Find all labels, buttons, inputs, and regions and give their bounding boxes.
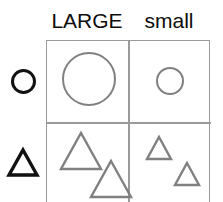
row-label-triangle (0, 122, 46, 202)
column-header-large: LARGE (46, 10, 128, 31)
cell-small-triangle (129, 123, 211, 202)
circle-icon (11, 69, 36, 94)
diagram-canvas: LARGE small (0, 0, 223, 202)
triangle-icon (173, 161, 201, 187)
triangle-icon (7, 148, 39, 177)
circle-icon (156, 67, 184, 95)
cell-large-triangle (47, 123, 129, 202)
row-label-circle (0, 40, 46, 122)
triangle-icon (145, 135, 173, 161)
matrix-grid (46, 40, 210, 202)
column-header-small: small (128, 10, 210, 31)
triangle-icon (89, 159, 133, 199)
cell-small-circle (129, 41, 211, 123)
circle-icon (62, 52, 116, 106)
cell-large-circle (47, 41, 129, 123)
